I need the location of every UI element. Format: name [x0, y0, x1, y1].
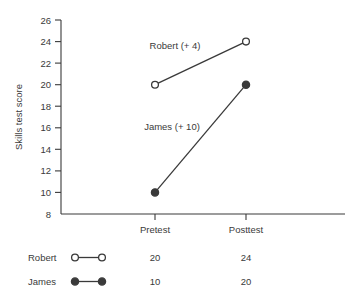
y-tick-label-8: 8 — [46, 209, 51, 220]
x-tick-label-posttest: Posttest — [229, 224, 264, 235]
y-tick-label-10: 10 — [40, 187, 51, 198]
legend-row-james: James 10 20 — [28, 276, 251, 287]
series-james-line — [155, 85, 246, 193]
legend-table: Robert 20 24 James 10 20 — [28, 252, 251, 287]
annotation-james: James (+ 10) — [144, 121, 200, 132]
y-tick-label-26: 26 — [40, 15, 51, 26]
series-james-point-pretest — [151, 189, 158, 196]
legend-row-robert: Robert 20 24 — [28, 252, 251, 263]
y-tick-label-14: 14 — [40, 144, 51, 155]
x-axis-ticks: Pretest Posttest — [140, 214, 264, 235]
y-tick-label-22: 22 — [40, 58, 51, 69]
legend-row-robert-pretest-value: 20 — [150, 252, 161, 263]
line-chart-svg: 26 24 22 20 18 16 14 12 10 8 Skills test… — [0, 0, 353, 297]
y-axis-ticks: 26 24 22 20 18 16 14 12 10 8 — [40, 15, 61, 220]
y-tick-label-12: 12 — [40, 165, 51, 176]
legend-symbol-open-circle-line — [72, 254, 106, 261]
y-tick-label-24: 24 — [40, 36, 51, 47]
y-tick-label-18: 18 — [40, 101, 51, 112]
legend-symbol-filled-circle-line — [71, 278, 105, 285]
y-tick-label-20: 20 — [40, 79, 51, 90]
y-tick-label-16: 16 — [40, 122, 51, 133]
legend-row-james-pretest-value: 10 — [150, 276, 161, 287]
legend-row-james-name: James — [28, 276, 56, 287]
series-robert-point-posttest — [243, 38, 250, 45]
legend-row-james-posttest-value: 20 — [241, 276, 252, 287]
y-axis-title: Skills test score — [13, 84, 24, 150]
x-tick-label-pretest: Pretest — [140, 224, 170, 235]
legend-row-robert-name: Robert — [28, 252, 57, 263]
chart-figure: 26 24 22 20 18 16 14 12 10 8 Skills test… — [0, 0, 353, 297]
series-james-point-posttest — [242, 81, 249, 88]
series-james — [151, 81, 249, 196]
annotation-robert: Robert (+ 4) — [150, 40, 201, 51]
series-robert-point-pretest — [152, 81, 159, 88]
legend-row-robert-posttest-value: 24 — [241, 252, 252, 263]
